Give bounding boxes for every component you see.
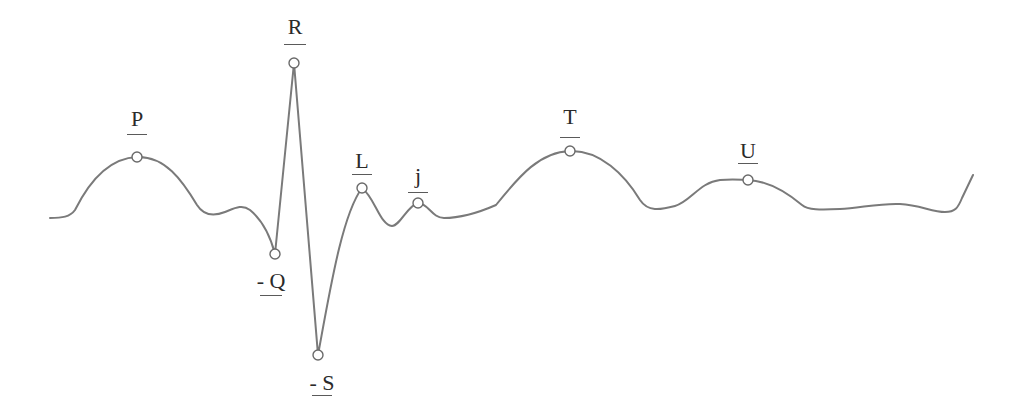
underline-t <box>560 137 580 138</box>
label-q: - Q <box>257 270 286 292</box>
underline-l <box>352 174 372 175</box>
marker-r-circle-icon <box>289 58 299 68</box>
ecg-diagram: P R - Q - S L j T U <box>0 0 1022 416</box>
marker-s-circle-icon <box>313 350 323 360</box>
ecg-waveform-svg <box>0 0 1022 416</box>
label-t: T <box>563 106 576 128</box>
label-u: U <box>740 140 756 162</box>
underline-s <box>312 395 332 396</box>
ecg-trace <box>50 63 973 355</box>
marker-t-circle-icon <box>565 146 575 156</box>
label-l: L <box>355 150 368 172</box>
marker-p-circle-icon <box>132 152 142 162</box>
underline-r <box>284 44 306 45</box>
underline-p <box>127 134 147 135</box>
label-s: - S <box>309 372 334 394</box>
underline-j <box>408 192 428 193</box>
marker-l-circle-icon <box>357 183 367 193</box>
marker-j-circle-icon <box>413 198 423 208</box>
label-p: P <box>131 108 143 130</box>
marker-u-circle-icon <box>743 175 753 185</box>
underline-u <box>738 163 758 164</box>
marker-q-circle-icon <box>270 249 280 259</box>
label-j: j <box>415 165 421 187</box>
underline-q <box>260 295 282 296</box>
label-r: R <box>288 16 303 38</box>
